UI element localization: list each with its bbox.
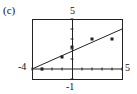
data-point <box>111 38 114 41</box>
data-point <box>41 68 44 71</box>
data-point <box>91 38 94 41</box>
regression-line <box>32 29 122 69</box>
scatter-plot <box>0 0 137 94</box>
plot-frame <box>33 20 123 80</box>
data-points <box>41 38 114 71</box>
data-point <box>71 46 74 49</box>
data-point <box>61 56 64 59</box>
